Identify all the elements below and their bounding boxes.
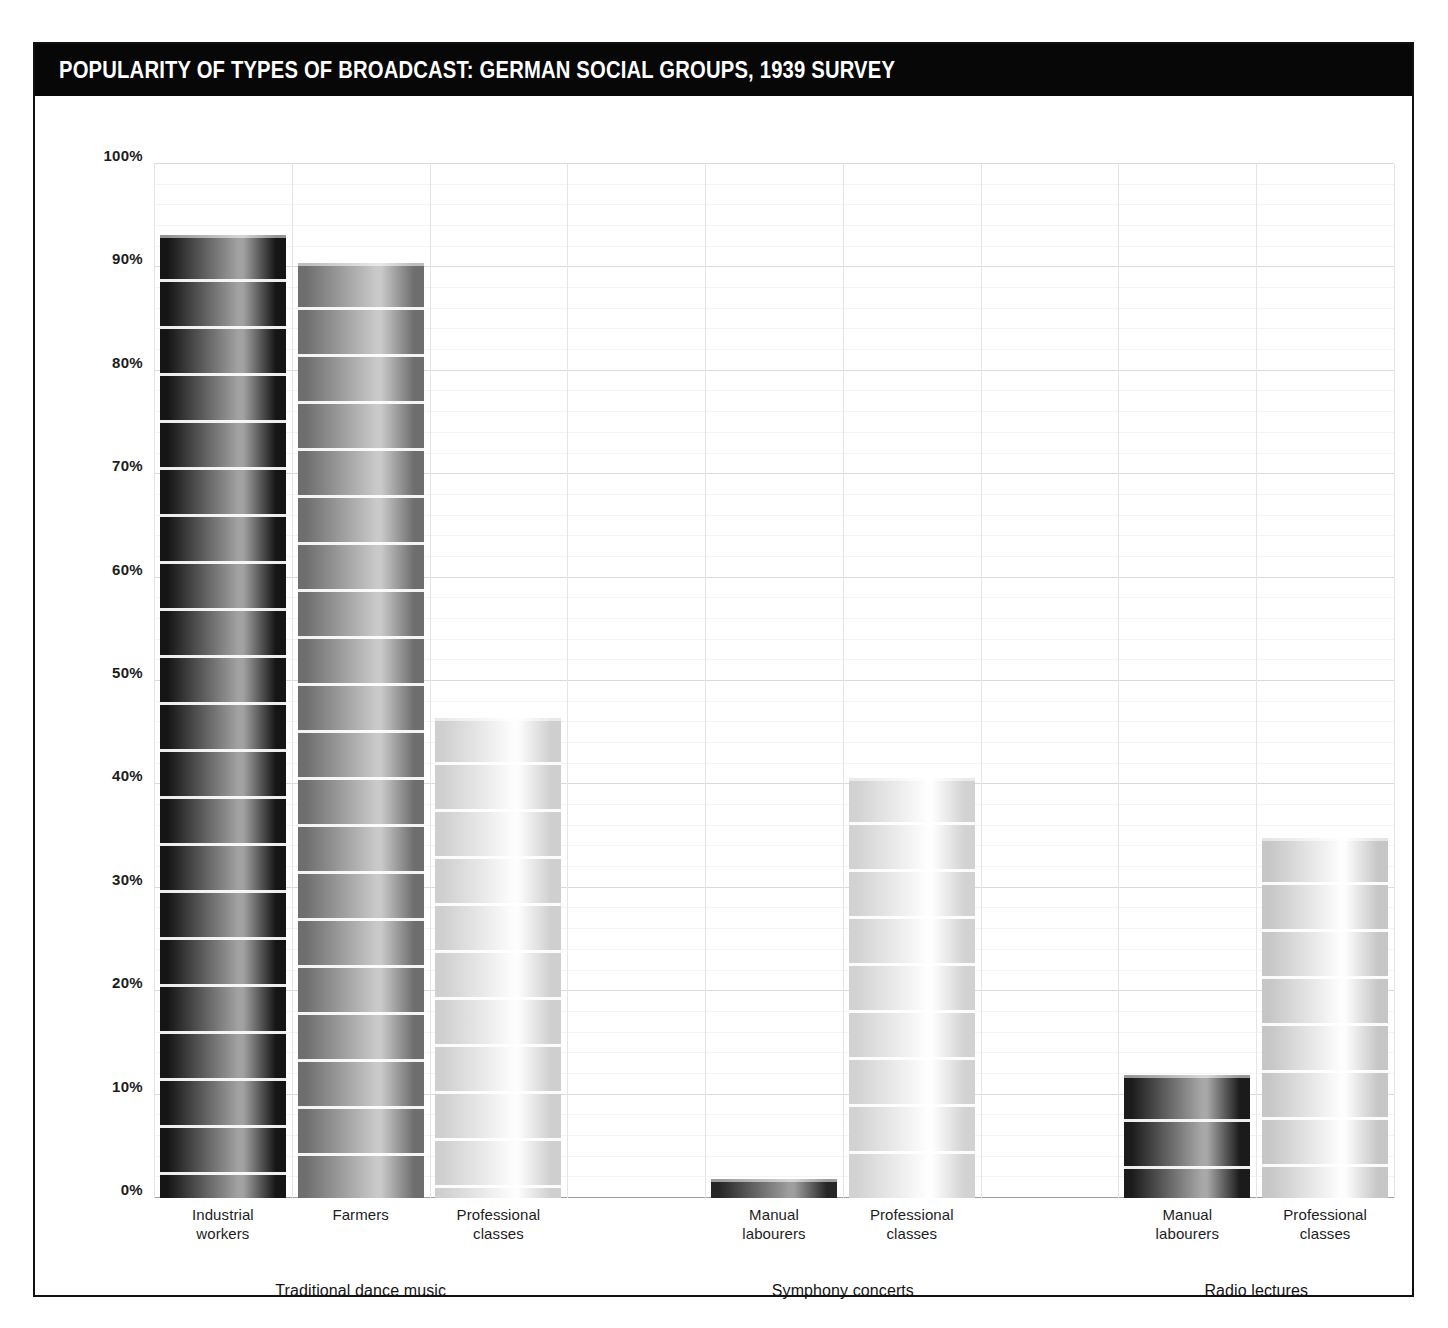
category-label-line: classes <box>1240 1225 1410 1244</box>
chart-card: POPULARITY OF TYPES OF BROADCAST: GERMAN… <box>33 42 1414 1297</box>
bar: 40.6% <box>849 778 975 1198</box>
y-axis-tick-label: 80% <box>112 353 143 370</box>
chart-page: POPULARITY OF TYPES OF BROADCAST: GERMAN… <box>0 0 1448 1328</box>
y-axis-tick-label: 0% <box>121 1181 143 1198</box>
bar-texture-lines <box>435 718 561 1198</box>
gridline-major <box>154 163 1394 164</box>
x-axis-group-label: Traditional dance music <box>275 1282 446 1300</box>
bar-top-highlight <box>711 1179 837 1182</box>
y-axis-tick-label: 60% <box>112 560 143 577</box>
x-axis-group-label: Radio lectures <box>1204 1282 1308 1300</box>
gridline-vertical <box>705 164 706 1198</box>
category-label-line: workers <box>138 1225 308 1244</box>
bar-top-highlight <box>1262 838 1388 841</box>
gridline-minor <box>154 184 1394 185</box>
gridline-minor <box>154 225 1394 226</box>
gridline-vertical <box>1394 164 1395 1198</box>
y-axis-tick-label: 100% <box>103 147 143 164</box>
gridline-vertical <box>1256 164 1257 1198</box>
category-label-line: Professional <box>827 1206 997 1225</box>
y-axis-tick-label: 10% <box>112 1077 143 1094</box>
gridline-minor <box>154 204 1394 205</box>
bar: 11.9% <box>1124 1075 1250 1198</box>
chart-title-bar: POPULARITY OF TYPES OF BROADCAST: GERMAN… <box>35 44 1412 96</box>
bar-top-highlight <box>160 235 286 238</box>
category-label-line: Professional <box>1240 1206 1410 1225</box>
x-axis-category-label: Professionalclasses <box>1240 1206 1410 1244</box>
bar: 1.8% <box>711 1179 837 1198</box>
gridline-vertical <box>981 164 982 1198</box>
bar-top-highlight <box>435 718 561 721</box>
bar: 46.4% <box>435 718 561 1198</box>
category-label-line: Professional <box>413 1206 583 1225</box>
plot-area: 0%10%20%30%40%50%60%70%80%90%100% 93.1%9… <box>154 164 1394 1198</box>
gridline-minor <box>154 246 1394 247</box>
x-axis-group-label: Symphony concerts <box>772 1282 914 1300</box>
gridline-vertical <box>567 164 568 1198</box>
bar-top-highlight <box>849 778 975 781</box>
category-label-line: classes <box>413 1225 583 1244</box>
bar-texture-lines <box>160 235 286 1198</box>
bar-texture-lines <box>1124 1075 1250 1198</box>
bar-texture-lines <box>849 778 975 1198</box>
category-label-line: classes <box>827 1225 997 1244</box>
y-axis-tick-label: 90% <box>112 250 143 267</box>
gridline-vertical <box>430 164 431 1198</box>
y-axis-tick-label: 30% <box>112 870 143 887</box>
y-axis-tick-label: 40% <box>112 767 143 784</box>
bar: 93.1% <box>160 235 286 1198</box>
bar: 34.8% <box>1262 838 1388 1198</box>
page-title: POPULARITY OF TYPES OF BROADCAST: GERMAN… <box>59 57 895 84</box>
gridline-vertical <box>154 164 155 1198</box>
y-axis-tick-label: 70% <box>112 457 143 474</box>
gridline-vertical <box>292 164 293 1198</box>
y-axis-tick-label: 50% <box>112 664 143 681</box>
x-axis-category-label: Professionalclasses <box>827 1206 997 1244</box>
x-axis-category-label: Professionalclasses <box>413 1206 583 1244</box>
bar-top-highlight <box>298 263 424 266</box>
gridline-vertical <box>843 164 844 1198</box>
bar: 90.4% <box>298 263 424 1198</box>
bar-top-highlight <box>1124 1075 1250 1078</box>
gridline-vertical <box>1118 164 1119 1198</box>
bar-texture-lines <box>1262 838 1388 1198</box>
y-axis-tick-label: 20% <box>112 974 143 991</box>
bar-texture-lines <box>298 263 424 1198</box>
